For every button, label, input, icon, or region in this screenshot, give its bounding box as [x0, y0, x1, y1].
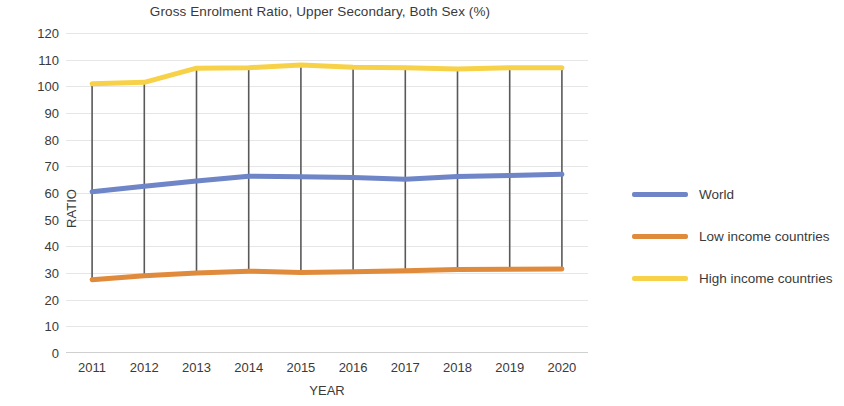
- y-axis-tick-label: 50: [45, 212, 59, 227]
- series-lines: [66, 33, 588, 353]
- x-axis-tick-label: 2013: [182, 360, 211, 375]
- x-axis-tick-label: 2016: [339, 360, 368, 375]
- chart-legend: WorldLow income countriesHigh income cou…: [632, 173, 842, 299]
- x-axis-tick-label: 2020: [547, 360, 576, 375]
- chart-title: Gross Enrolment Ratio, Upper Secondary, …: [70, 4, 570, 19]
- legend-item[interactable]: High income countries: [632, 257, 842, 299]
- legend-color-swatch: [632, 192, 688, 197]
- plot-area: 1201101009080706050403020100 20112012201…: [66, 33, 588, 353]
- legend-label: Low income countries: [699, 229, 830, 244]
- y-axis-tick-label: 0: [52, 346, 59, 361]
- x-axis-tick-label: 2012: [130, 360, 159, 375]
- x-axis-title: YEAR: [66, 383, 588, 398]
- chart-container: Gross Enrolment Ratio, Upper Secondary, …: [0, 0, 844, 406]
- y-axis-tick-label: 60: [45, 186, 59, 201]
- legend-color-swatch: [632, 276, 688, 281]
- x-axis-tick-label: 2011: [78, 360, 106, 375]
- x-axis-tick-label: 2015: [286, 360, 315, 375]
- x-axis-tick-label: 2019: [495, 360, 524, 375]
- y-axis-tick-label: 120: [37, 26, 59, 41]
- y-axis-tick-label: 110: [38, 52, 59, 67]
- high-low-lines: [92, 65, 562, 280]
- x-axis-tick-label: 2017: [391, 360, 420, 375]
- x-axis-tick-label: 2014: [234, 360, 263, 375]
- series-line: [92, 269, 562, 280]
- y-axis-tick-label: 70: [45, 159, 59, 174]
- y-axis-tick-label: 100: [37, 79, 59, 94]
- legend-label: World: [699, 187, 734, 202]
- y-axis-tick-label: 90: [45, 106, 59, 121]
- y-axis-tick-label: 40: [45, 239, 59, 254]
- legend-label: High income countries: [699, 271, 833, 286]
- y-axis-tick-label: 20: [45, 292, 59, 307]
- x-axis-tick-label: 2018: [443, 360, 472, 375]
- series-line: [92, 174, 562, 191]
- legend-item[interactable]: World: [632, 173, 842, 215]
- y-axis-tick-label: 30: [45, 266, 59, 281]
- legend-color-swatch: [632, 234, 688, 239]
- y-axis-title: RATIO: [64, 189, 79, 228]
- legend-item[interactable]: Low income countries: [632, 215, 842, 257]
- series-line: [92, 65, 562, 84]
- y-axis-tick-label: 10: [45, 319, 59, 334]
- y-axis-tick-label: 80: [45, 132, 59, 147]
